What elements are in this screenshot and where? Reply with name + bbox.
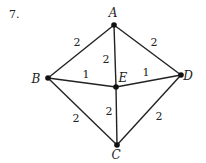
edge-a-e [114,25,116,87]
edge-weight-a-b: 2 [74,36,81,49]
problem-number: 7. [9,8,20,21]
node-e [113,84,119,90]
node-b [45,75,51,81]
edge-weight-b-c: 2 [73,112,80,125]
edge-weight-d-c: 2 [156,110,163,123]
edge-a-b [48,25,114,78]
edge-weight-a-e: 2 [103,53,110,66]
weighted-graph-diagram: 7. 22211222 ABCDE [0,0,206,163]
node-label-d: D [182,69,193,83]
node-label-c: C [111,148,120,162]
node-a [111,22,117,28]
node-c [114,142,120,148]
node-label-a: A [108,6,118,20]
edge-weight-b-e: 1 [83,68,90,81]
edge-e-c [116,87,117,145]
node-label-e: E [118,71,128,85]
edge-weight-e-c: 2 [106,105,113,118]
edge-weight-e-d: 1 [143,66,150,79]
node-label-b: B [31,72,41,86]
edge-weight-a-d: 2 [151,36,158,49]
